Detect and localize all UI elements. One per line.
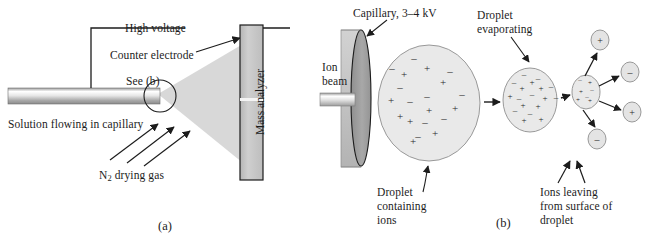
- label-droplet-containing-ions: Droplet containing ions: [377, 185, 427, 227]
- free-ion-negative-right-symbol: –: [627, 67, 634, 78]
- capillary-tube: [8, 88, 160, 104]
- charge-positive: +: [579, 88, 583, 96]
- label-drying-gas: N2 drying gas: [99, 168, 164, 183]
- drying-gas-rest: drying gas: [112, 169, 164, 181]
- esi-figure: ––+–++–––+–++++––+–+––+–++––+–+–++––++–+…: [0, 0, 662, 249]
- charge-positive: +: [529, 77, 534, 87]
- label-ion-beam: Ion beam: [322, 60, 347, 88]
- ion-beam-tube: [320, 93, 355, 106]
- free-ion-positive-right-symbol: +: [629, 107, 635, 118]
- free-ion-positive-top-symbol: +: [597, 35, 603, 46]
- charge-negative: –: [577, 76, 582, 84]
- charge-positive: +: [410, 135, 416, 147]
- label-ions-leaving: Ions leaving from surface of droplet: [540, 185, 612, 227]
- charge-negative: –: [529, 89, 535, 99]
- charge-positive: +: [440, 76, 446, 88]
- charge-positive: +: [424, 62, 430, 74]
- charge-positive: +: [538, 83, 543, 93]
- charge-negative: –: [446, 65, 453, 77]
- charge-negative: –: [423, 90, 430, 102]
- charge-positive: +: [388, 94, 394, 106]
- charge-negative: –: [458, 88, 465, 100]
- charge-positive: +: [535, 101, 540, 111]
- charge-negative: –: [553, 92, 559, 102]
- arrow-medium-to-small: [561, 95, 570, 98]
- charge-negative: –: [440, 112, 447, 124]
- label-counter-electrode: Counter electrode: [110, 48, 194, 62]
- charge-positive: +: [432, 127, 438, 139]
- charge-positive: +: [538, 114, 543, 124]
- label-mass-analyzer: Mass analyzer: [254, 54, 266, 150]
- charge-positive: +: [401, 68, 407, 80]
- label-high-voltage: High voltage: [125, 21, 186, 35]
- charge-negative: –: [521, 69, 527, 79]
- charge-positive: +: [426, 104, 432, 116]
- free-ion-negative-bottom-symbol: –: [594, 134, 601, 145]
- charge-positive: +: [521, 115, 526, 125]
- label-capillary-voltage: Capillary, 3–4 kV: [353, 6, 437, 20]
- charge-positive: +: [576, 96, 580, 104]
- charge-positive: +: [542, 93, 547, 103]
- label-see-b: See (b): [126, 74, 160, 88]
- charge-negative: –: [406, 95, 413, 107]
- charge-positive: +: [519, 83, 524, 93]
- charge-positive: +: [397, 110, 403, 122]
- droplet-evaporating-callout: [511, 37, 529, 62]
- charge-negative: –: [527, 108, 533, 118]
- panel-tag-b: (b): [496, 216, 511, 231]
- charge-negative: –: [410, 52, 417, 64]
- charge-negative: –: [548, 81, 554, 91]
- charge-positive: +: [452, 102, 458, 114]
- charge-negative: –: [511, 77, 517, 87]
- charge-negative: –: [535, 73, 541, 83]
- capillary-callout-arrow: [367, 20, 387, 36]
- ions-leaving-callouts: [558, 161, 585, 183]
- charge-negative: –: [421, 116, 428, 128]
- charge-negative: –: [388, 62, 395, 74]
- label-droplet-evaporating: Droplet evaporating: [477, 8, 532, 36]
- panel-b-graphics: [320, 20, 641, 192]
- charge-positive: +: [507, 91, 512, 101]
- label-solution-flowing: Solution flowing in capillary: [8, 117, 143, 131]
- panel-tag-a: (a): [158, 219, 172, 234]
- charge-negative: –: [512, 105, 518, 115]
- charge-positive: +: [588, 97, 592, 105]
- charge-negative: –: [396, 81, 403, 93]
- charge-negative: –: [589, 86, 594, 94]
- charge-positive: +: [407, 115, 413, 127]
- charge-positive: +: [520, 100, 525, 110]
